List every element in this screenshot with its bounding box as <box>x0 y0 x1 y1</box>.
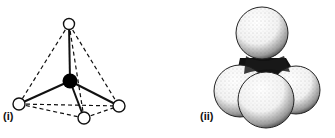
panel-label-ii: (ii) <box>200 110 213 122</box>
molecule-figure <box>0 0 335 138</box>
outer-atom-left <box>13 98 25 110</box>
central-atom <box>63 74 78 89</box>
panel-label-i: (i) <box>3 110 13 122</box>
ball-and-stick-model <box>13 19 125 125</box>
space-filling-model <box>214 7 320 128</box>
outer-atom-bottom <box>78 112 90 124</box>
outer-atom-top <box>64 19 75 30</box>
outer-atom-right <box>113 100 125 112</box>
